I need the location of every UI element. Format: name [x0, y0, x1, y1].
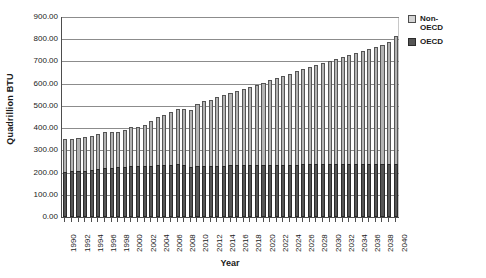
bar-group[interactable]	[380, 45, 384, 217]
bar-segment-oecd[interactable]	[361, 164, 365, 217]
bar-group[interactable]	[268, 80, 272, 217]
bar-segment-oecd[interactable]	[347, 164, 351, 217]
bar-segment-oecd[interactable]	[275, 165, 279, 217]
bar-group[interactable]	[156, 117, 160, 217]
bar-segment-oecd[interactable]	[341, 164, 345, 217]
bar-group[interactable]	[367, 49, 371, 217]
bar-group[interactable]	[308, 67, 312, 217]
bar-segment-non-oecd[interactable]	[76, 138, 80, 171]
bar-group[interactable]	[90, 136, 94, 217]
bar-segment-oecd[interactable]	[156, 165, 160, 217]
bar-segment-oecd[interactable]	[189, 167, 193, 217]
bar-segment-non-oecd[interactable]	[328, 61, 332, 164]
bar-segment-oecd[interactable]	[301, 164, 305, 217]
bar-segment-non-oecd[interactable]	[341, 57, 345, 164]
bar-group[interactable]	[374, 47, 378, 217]
bar-group[interactable]	[281, 76, 285, 217]
bar-segment-non-oecd[interactable]	[156, 117, 160, 165]
bar-segment-non-oecd[interactable]	[63, 139, 67, 172]
bar-segment-oecd[interactable]	[195, 166, 199, 217]
bar-segment-non-oecd[interactable]	[110, 132, 114, 168]
bar-group[interactable]	[341, 57, 345, 217]
bar-group[interactable]	[295, 71, 299, 217]
bar-segment-non-oecd[interactable]	[169, 112, 173, 165]
bar-group[interactable]	[288, 74, 292, 217]
bar-segment-oecd[interactable]	[268, 165, 272, 217]
bar-segment-non-oecd[interactable]	[202, 101, 206, 166]
bar-segment-non-oecd[interactable]	[275, 78, 279, 165]
bar-group[interactable]	[96, 134, 100, 217]
bar-segment-oecd[interactable]	[162, 165, 166, 217]
bar-segment-non-oecd[interactable]	[235, 91, 239, 165]
bar-segment-oecd[interactable]	[295, 165, 299, 217]
bar-group[interactable]	[116, 132, 120, 217]
bar-segment-non-oecd[interactable]	[242, 89, 246, 165]
bar-segment-non-oecd[interactable]	[281, 76, 285, 165]
bar-segment-non-oecd[interactable]	[209, 100, 213, 166]
bar-segment-oecd[interactable]	[96, 169, 100, 217]
bar-segment-oecd[interactable]	[261, 165, 265, 217]
bar-segment-non-oecd[interactable]	[96, 134, 100, 169]
bar-segment-oecd[interactable]	[90, 170, 94, 217]
legend-item-oecd[interactable]: OECD	[408, 37, 484, 46]
bar-segment-non-oecd[interactable]	[149, 121, 153, 165]
bar-segment-non-oecd[interactable]	[195, 104, 199, 166]
bar-segment-oecd[interactable]	[248, 165, 252, 217]
bar-segment-oecd[interactable]	[129, 166, 133, 217]
bar-group[interactable]	[394, 36, 398, 217]
bar-segment-non-oecd[interactable]	[222, 95, 226, 165]
bar-segment-oecd[interactable]	[176, 164, 180, 217]
bar-group[interactable]	[321, 63, 325, 217]
bar-group[interactable]	[222, 95, 226, 217]
bar-segment-non-oecd[interactable]	[367, 49, 371, 164]
bar-group[interactable]	[215, 97, 219, 217]
bar-segment-non-oecd[interactable]	[347, 55, 351, 164]
bar-group[interactable]	[182, 109, 186, 217]
bar-group[interactable]	[70, 139, 74, 217]
bar-segment-non-oecd[interactable]	[90, 136, 94, 170]
bar-segment-oecd[interactable]	[380, 164, 384, 217]
bar-segment-non-oecd[interactable]	[288, 74, 292, 165]
bar-group[interactable]	[255, 85, 259, 217]
bar-group[interactable]	[275, 78, 279, 217]
bar-segment-non-oecd[interactable]	[215, 97, 219, 165]
bar-segment-non-oecd[interactable]	[255, 85, 259, 165]
bar-group[interactable]	[110, 132, 114, 217]
bar-segment-non-oecd[interactable]	[70, 139, 74, 172]
bar-segment-oecd[interactable]	[76, 171, 80, 217]
bar-segment-oecd[interactable]	[215, 166, 219, 217]
bar-segment-non-oecd[interactable]	[361, 51, 365, 164]
bar-group[interactable]	[169, 112, 173, 217]
bar-segment-oecd[interactable]	[314, 164, 318, 217]
bar-segment-non-oecd[interactable]	[143, 125, 147, 166]
bar-group[interactable]	[143, 125, 147, 217]
bar-segment-oecd[interactable]	[235, 165, 239, 217]
bar-segment-oecd[interactable]	[255, 165, 259, 217]
bar-segment-oecd[interactable]	[103, 168, 107, 217]
bar-segment-oecd[interactable]	[169, 165, 173, 217]
bar-segment-oecd[interactable]	[63, 172, 67, 217]
bar-segment-non-oecd[interactable]	[83, 137, 87, 171]
bar-group[interactable]	[162, 115, 166, 217]
bar-group[interactable]	[129, 127, 133, 217]
bar-segment-oecd[interactable]	[123, 167, 127, 217]
bar-segment-non-oecd[interactable]	[380, 45, 384, 164]
bar-segment-oecd[interactable]	[394, 164, 398, 217]
bar-segment-oecd[interactable]	[202, 166, 206, 217]
bar-group[interactable]	[228, 93, 232, 217]
bar-segment-non-oecd[interactable]	[136, 127, 140, 167]
bar-segment-oecd[interactable]	[281, 165, 285, 217]
bar-group[interactable]	[149, 121, 153, 217]
bar-segment-non-oecd[interactable]	[387, 42, 391, 163]
bar-segment-non-oecd[interactable]	[103, 132, 107, 168]
bar-segment-non-oecd[interactable]	[301, 69, 305, 164]
bar-group[interactable]	[209, 100, 213, 217]
bar-group[interactable]	[202, 101, 206, 217]
bar-group[interactable]	[387, 42, 391, 217]
bar-group[interactable]	[83, 137, 87, 217]
bar-group[interactable]	[347, 55, 351, 217]
bar-group[interactable]	[176, 109, 180, 217]
bar-group[interactable]	[301, 69, 305, 217]
bar-segment-non-oecd[interactable]	[129, 127, 133, 165]
bar-group[interactable]	[63, 139, 67, 217]
